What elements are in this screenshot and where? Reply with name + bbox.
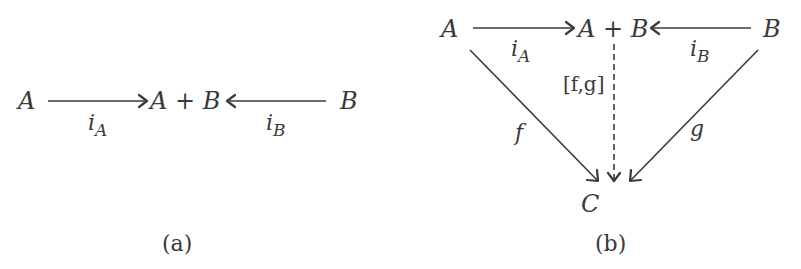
arrow-b-f: [470, 50, 597, 180]
label-b-g: g: [690, 116, 704, 141]
coproduct-diagram: A A + B B iA iB (a) A A + B B C iA iB [f…: [0, 0, 801, 269]
node-a-plus-b: A + B: [148, 87, 220, 115]
node-b-right: B: [339, 87, 358, 115]
node-b-a-plus-b: A + B: [576, 15, 648, 43]
label-b-fg: [f,g]: [563, 72, 604, 96]
arrow-b-g: [631, 50, 758, 180]
panel-a: A A + B B iA iB (a): [16, 87, 358, 256]
node-a-left: A: [16, 87, 35, 115]
node-b-b-right: B: [762, 15, 781, 43]
label-b-f: f: [513, 120, 527, 145]
label-ia: iA: [88, 110, 107, 140]
panel-b: A A + B B C iA iB [f,g] f g (b): [439, 15, 781, 256]
node-b-c: C: [581, 190, 599, 218]
node-b-a-left: A: [439, 15, 458, 43]
label-b-ib: iB: [690, 36, 710, 66]
caption-a: (a): [162, 231, 192, 256]
label-ib: iB: [266, 110, 286, 140]
label-b-ia: iA: [511, 36, 530, 66]
caption-b: (b): [595, 231, 626, 256]
